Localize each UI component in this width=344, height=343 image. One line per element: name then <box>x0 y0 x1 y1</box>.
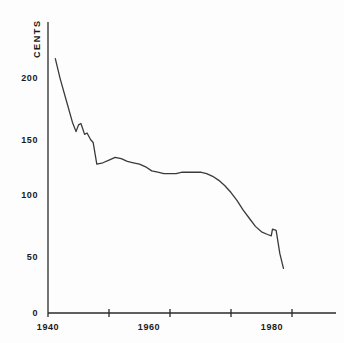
x-tick-label-1980: 1980 <box>250 322 294 332</box>
x-tick-label-1940: 1940 <box>26 322 70 332</box>
y-axis-title: CENTS <box>32 19 42 58</box>
y-tick-label-50: 50 <box>6 252 38 262</box>
y-tick-label-200: 200 <box>6 73 38 83</box>
y-tick-label-0: 0 <box>6 308 38 318</box>
x-tick-label-1960: 1960 <box>127 322 171 332</box>
y-tick-label-100: 100 <box>6 190 38 200</box>
line-chart-plot <box>0 0 344 343</box>
axes-group <box>48 22 336 313</box>
data-series-line <box>55 59 283 269</box>
chart-container: CENTS 200 150 100 50 0 1940 1960 1980 <box>0 0 344 343</box>
y-tick-label-150: 150 <box>6 135 38 145</box>
